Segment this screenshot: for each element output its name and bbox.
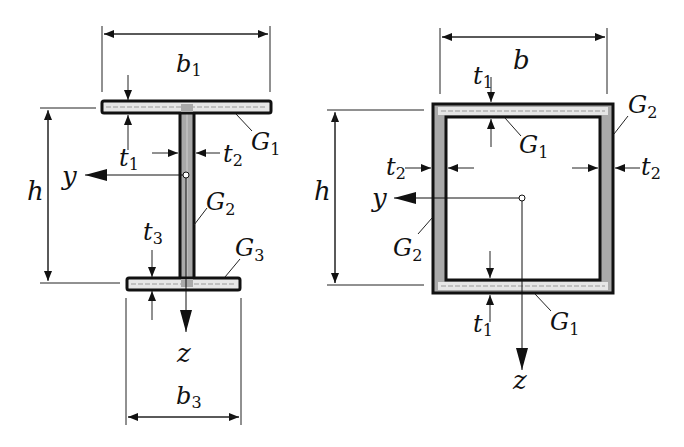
dim-t3: t3 [143, 218, 163, 320]
svg-text:b1: b1 [176, 50, 202, 80]
svg-text:t2: t2 [223, 140, 243, 170]
svg-text:t1: t1 [473, 62, 493, 92]
svg-text:G2: G2 [628, 91, 657, 122]
svg-text:G1: G1 [550, 308, 579, 339]
dim-h-left: h [27, 108, 120, 283]
svg-text:y: y [61, 161, 77, 191]
box-centroid [519, 195, 525, 201]
svg-text:t3: t3 [143, 218, 163, 248]
svg-text:z: z [512, 365, 527, 395]
svg-text:h: h [314, 176, 331, 206]
dim-b1: b1 [102, 26, 270, 92]
svg-text:t2: t2 [386, 153, 406, 183]
label-G1-bottom: G1 [535, 294, 579, 339]
svg-text:G2: G2 [206, 188, 235, 219]
label-G2: G2 [194, 188, 235, 225]
svg-text:y: y [371, 183, 387, 213]
svg-text:z: z [176, 338, 191, 368]
label-G2-right: G2 [614, 91, 657, 134]
dim-t2: t2 [152, 140, 243, 170]
dim-t1: t1 [119, 75, 139, 174]
i-centroid [183, 172, 189, 178]
svg-text:h: h [27, 176, 44, 206]
label-G3: G3 [225, 234, 264, 277]
i-section: b1 t1 t2 G1 G2 G3 [27, 26, 280, 425]
label-G2-left: G2 [393, 218, 432, 265]
i-bottom-flange [127, 278, 240, 290]
svg-text:b3: b3 [176, 382, 202, 412]
i-top-flange [102, 101, 271, 113]
dim-b: b [440, 28, 607, 94]
svg-text:b: b [513, 45, 530, 75]
svg-text:G3: G3 [235, 234, 264, 265]
box-section: b t1 G1 G2 t2 t2 [314, 28, 661, 395]
svg-text:t2: t2 [641, 153, 661, 183]
svg-text:t1: t1 [119, 144, 139, 174]
i-web [180, 110, 194, 280]
svg-text:G2: G2 [393, 234, 422, 265]
cross-sections-diagram: b1 t1 t2 G1 G2 G3 [0, 0, 684, 447]
svg-text:G1: G1 [251, 128, 280, 159]
